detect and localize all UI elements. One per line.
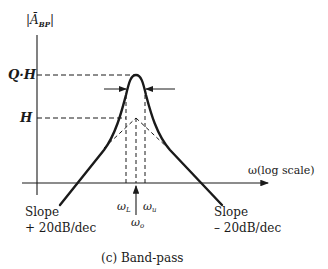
response-curve xyxy=(60,75,222,205)
x-axis-label: ω(log scale) xyxy=(248,164,315,177)
omega-u-label: ωu xyxy=(143,200,157,214)
left-slope-label-line2: + 20dB/dec xyxy=(25,221,96,235)
omega-o-label: ωo xyxy=(131,216,144,230)
omega-l-label: ωL xyxy=(117,200,131,214)
y-axis-label: |ĀBP| xyxy=(26,12,54,29)
figure-caption: (c) Band-pass xyxy=(101,251,184,265)
right-slope-label-line1: Slope xyxy=(214,205,248,219)
qh-label: Q·H xyxy=(8,67,37,82)
band-pass-diagram: |ĀBP| Q·H H ω(log scale) ωL ωu ωo Slope … xyxy=(0,0,328,269)
h-label: H xyxy=(19,110,33,125)
left-slope-label-line1: Slope xyxy=(25,205,59,219)
right-slope-label-line2: – 20dB/dec xyxy=(214,221,281,235)
